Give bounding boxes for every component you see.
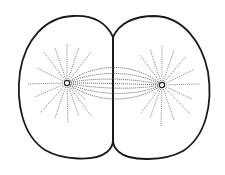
spindle-fibers <box>67 67 162 99</box>
left-centrosome <box>64 80 69 85</box>
diagram-canvas <box>0 0 225 175</box>
right-centrosome <box>159 82 164 87</box>
cell-outlines <box>19 16 210 159</box>
left-aster <box>27 44 92 122</box>
right-aster <box>140 45 200 126</box>
cell-division-diagram: Cell division: two daughter cells with a… <box>0 0 225 175</box>
